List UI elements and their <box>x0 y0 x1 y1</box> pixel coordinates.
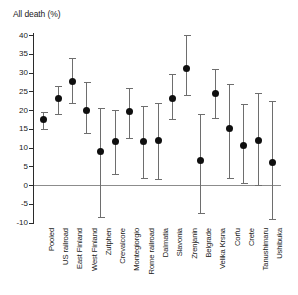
x-axis-label: East Finland <box>75 228 84 269</box>
y-tick-label: -10 <box>2 218 28 227</box>
error-bar-cap-upper <box>41 112 48 113</box>
x-axis-label: Tanushimaru <box>261 228 270 270</box>
data-point-marker <box>197 157 204 164</box>
error-bar-cap-lower <box>269 219 276 220</box>
y-tick-label: 15 <box>2 124 28 133</box>
error-bar-cap-upper <box>255 93 262 94</box>
error-bar-cap-lower <box>69 103 76 104</box>
error-bar-cap-upper <box>227 84 234 85</box>
error-bar-cap-upper <box>155 103 162 104</box>
x-axis-label-text: Montegiorgio <box>132 228 141 271</box>
plot-area <box>33 35 290 222</box>
error-bar-cap-upper <box>126 88 133 89</box>
x-axis-label: Velika Krsna <box>218 228 227 269</box>
error-bar-cap-lower <box>155 179 162 180</box>
chart-title: All death (%) <box>13 9 60 19</box>
x-axis-label: Crete <box>247 228 256 246</box>
error-bar-cap-upper <box>112 110 119 111</box>
error-bar-cap-lower <box>212 118 219 119</box>
x-axis-label: Corfu <box>233 228 242 246</box>
data-point-marker <box>155 137 162 144</box>
x-axis-label: Crevalcore <box>118 228 127 264</box>
x-axis-label-text: Zrenjanin <box>190 228 199 259</box>
data-point-marker <box>226 125 233 132</box>
x-axis-label-text: Belgrade <box>204 228 213 258</box>
data-point-marker <box>140 138 147 145</box>
data-point-marker <box>126 108 133 115</box>
error-bar-cap-lower <box>241 183 248 184</box>
y-tick-label: 25 <box>2 87 28 96</box>
x-axis-label-text: US railroad <box>61 228 70 265</box>
x-axis-label-text: Pooled <box>47 228 56 251</box>
error-bar-cap-lower <box>169 119 176 120</box>
data-point-marker <box>183 65 190 72</box>
y-tick-label: 30 <box>2 68 28 77</box>
y-tick-mark <box>29 223 34 224</box>
x-axis-label: Zutphen <box>104 228 113 255</box>
x-axis-label-text: East Finland <box>75 228 84 269</box>
x-axis-label-text: Crete <box>247 228 256 246</box>
data-point-marker <box>255 137 262 144</box>
error-bar-cap-upper <box>169 74 176 75</box>
error-bar-cap-upper <box>184 35 191 36</box>
data-point-marker <box>169 95 176 102</box>
x-axis-label-text: Zutphen <box>104 228 113 255</box>
error-bar-cap-lower <box>41 129 48 130</box>
all-death-forest-chart: All death (%) 4035302520151050-5-10 Pool… <box>0 0 298 295</box>
y-tick-label: 40 <box>2 31 28 40</box>
error-bar-cap-lower <box>55 114 62 115</box>
x-axis-label: Belgrade <box>204 228 213 258</box>
x-axis-label: West Finland <box>90 228 99 271</box>
error-bar-cap-lower <box>198 213 205 214</box>
error-bar-cap-lower <box>227 178 234 179</box>
error-bar-cap-lower <box>141 178 148 179</box>
x-axis-label: US railroad <box>61 228 70 265</box>
data-point-marker <box>97 148 104 155</box>
y-tick-label: 20 <box>2 106 28 115</box>
error-bar-cap-upper <box>269 101 276 102</box>
data-point-marker <box>69 78 76 85</box>
x-axis-label: Zrenjanin <box>190 228 199 259</box>
x-axis-label-text: Tanushimaru <box>261 228 270 270</box>
x-axis-label-text: Dalmatia <box>161 228 170 257</box>
data-point-marker <box>240 142 247 149</box>
x-axis-label-text: Ushibuka <box>275 228 284 259</box>
x-axis-label: Rome railroad <box>147 228 156 274</box>
y-tick-label: 0 <box>2 181 28 190</box>
error-bar-cap-upper <box>69 58 76 59</box>
y-tick-label: 10 <box>2 143 28 152</box>
error-bar-cap-upper <box>141 106 148 107</box>
error-bar-cap-upper <box>84 82 91 83</box>
x-axis-label: Pooled <box>47 228 56 251</box>
error-bar-cap-upper <box>98 108 105 109</box>
error-bar-cap-lower <box>255 185 262 186</box>
x-axis-label-text: Slavonia <box>175 228 184 256</box>
data-point-marker <box>40 116 47 123</box>
x-axis-label: Dalmatia <box>161 228 170 257</box>
error-bar-line <box>100 108 101 217</box>
x-axis-label: Ushibuka <box>275 228 284 259</box>
error-bar-cap-lower <box>112 174 119 175</box>
y-tick-label: 5 <box>2 162 28 171</box>
data-point-marker <box>212 90 219 97</box>
y-tick-label: 35 <box>2 49 28 58</box>
x-axis-label-text: Rome railroad <box>147 228 156 274</box>
data-point-marker <box>55 95 62 102</box>
data-point-marker <box>112 138 119 145</box>
error-bar-cap-upper <box>55 86 62 87</box>
x-axis-label-text: West Finland <box>90 228 99 271</box>
error-bar-cap-upper <box>212 69 219 70</box>
error-bar-cap-lower <box>84 133 91 134</box>
error-bar-cap-lower <box>184 95 191 96</box>
x-axis-label: Slavonia <box>175 228 184 256</box>
data-point-marker <box>269 159 276 166</box>
data-point-marker <box>83 107 90 114</box>
y-tick-label: -5 <box>2 199 28 208</box>
x-axis-label-text: Velika Krsna <box>218 228 227 269</box>
x-axis-label-text: Crevalcore <box>118 228 127 264</box>
error-bar-cap-upper <box>241 104 248 105</box>
x-axis-label: Montegiorgio <box>132 228 141 271</box>
x-axis-label-text: Corfu <box>233 228 242 246</box>
error-bar-cap-lower <box>126 138 133 139</box>
error-bar-cap-upper <box>198 114 205 115</box>
